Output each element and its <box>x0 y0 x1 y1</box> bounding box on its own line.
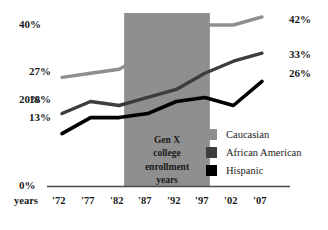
start-label-hispanic: 13% <box>29 112 51 123</box>
gen-x-annotation: Gen X college enrollment years <box>124 134 210 188</box>
x-tick-label-87: '87 <box>138 196 151 207</box>
x-axis-caption: years <box>14 196 38 207</box>
legend-label-caucasian: Caucasian <box>226 129 269 140</box>
end-label-caucasian: 42% <box>289 14 311 25</box>
x-tick-label-92: '92 <box>167 196 180 207</box>
gen-x-line-3: enrollment <box>124 161 210 174</box>
legend-label-hispanic: Hispanic <box>226 165 263 176</box>
y-axis-label-0: 0% <box>19 180 36 191</box>
y-axis-label-40: 40% <box>19 19 41 30</box>
legend-item-caucasian[interactable]: Caucasian <box>206 126 328 142</box>
x-tick-label-77: '77 <box>81 196 94 207</box>
gen-x-line-2: college <box>124 147 210 160</box>
chart-legend: Caucasian African American Hispanic <box>206 126 328 180</box>
gen-x-line-4: years <box>124 174 210 187</box>
start-label-caucasian: 27% <box>29 66 51 77</box>
chart-container: 40% 20% 0% 27% 18% 13% 42% 33% 26% Gen X… <box>0 0 328 230</box>
legend-item-african-american[interactable]: African American <box>206 144 328 160</box>
end-label-african-american: 33% <box>289 49 311 60</box>
x-tick-label-07: '07 <box>253 196 266 207</box>
legend-label-african-american: African American <box>226 147 302 158</box>
end-label-hispanic: 26% <box>289 68 311 79</box>
legend-swatch-caucasian <box>206 129 217 140</box>
legend-swatch-african-american <box>206 147 217 158</box>
x-tick-label-82: '82 <box>110 196 123 207</box>
x-tick-label-97: '97 <box>195 196 208 207</box>
start-label-african-american: 18% <box>29 94 51 105</box>
legend-item-hispanic[interactable]: Hispanic <box>206 162 328 178</box>
legend-swatch-hispanic <box>206 165 217 176</box>
x-tick-label-02: '02 <box>224 196 237 207</box>
gen-x-line-1: Gen X <box>124 134 210 147</box>
x-tick-label-72: '72 <box>52 196 65 207</box>
